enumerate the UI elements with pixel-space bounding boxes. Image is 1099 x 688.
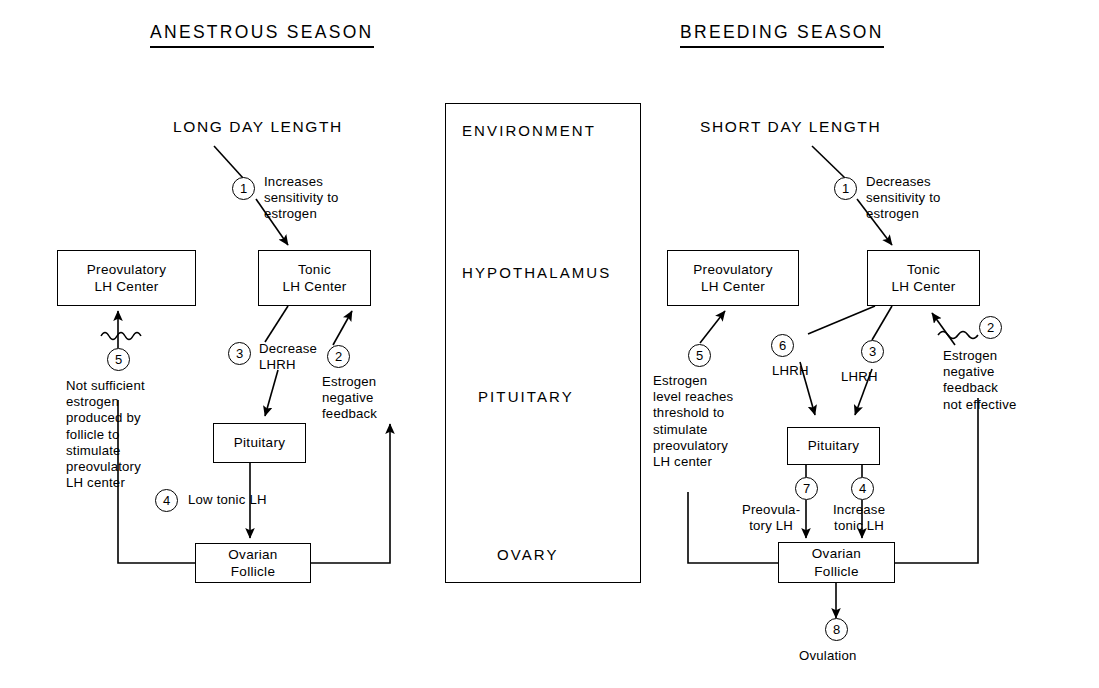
right-step-8-marker: 8: [825, 618, 848, 641]
right-box-ovarian-follicle-label: Ovarian Follicle: [812, 545, 861, 580]
right-step-4-label: Increase tonic LH: [833, 502, 885, 534]
left-step-2-marker: 2: [327, 345, 350, 368]
left-box-tonic-lh-center: Tonic LH Center: [258, 250, 371, 306]
center-level-ovary: OVARY: [497, 546, 559, 563]
right-stimulus-label: SHORT DAY LENGTH: [700, 118, 881, 136]
left-step-2-label: Estrogen negative feedback: [322, 374, 377, 423]
right-step-7-label: Preovula- tory LH: [742, 502, 800, 534]
right-step-7-marker: 7: [795, 477, 818, 500]
left-step-5-label: Not sufficient estrogen produced by foll…: [66, 378, 145, 492]
right-step-3-marker: 3: [861, 340, 884, 363]
diagram-canvas: ANESTROUS SEASON BREEDING SEASON ENVIRON…: [0, 0, 1099, 688]
right-box-ovarian-follicle: Ovarian Follicle: [778, 542, 895, 583]
right-step-6-label: LHRH: [772, 363, 809, 379]
title-breeding: BREEDING SEASON: [680, 22, 884, 43]
left-step-5-marker: 5: [107, 348, 130, 371]
left-step-1-marker: 1: [232, 177, 255, 200]
left-step-1-label: Increases sensitivity to estrogen: [264, 174, 339, 223]
left-box-ovarian-follicle: Ovarian Follicle: [195, 543, 311, 583]
left-stimulus-label: LONG DAY LENGTH: [173, 118, 343, 136]
right-box-pituitary: Pituitary: [787, 427, 880, 465]
center-column-box: [445, 103, 641, 583]
right-step-8-label: Ovulation: [799, 648, 857, 664]
right-step-6-marker: 6: [771, 334, 794, 357]
right-step-2-label: Estrogen negative feedback not effective: [943, 348, 1016, 413]
right-step-5-label: Estrogen level reaches threshold to stim…: [653, 373, 733, 470]
title-anestrous: ANESTROUS SEASON: [150, 22, 374, 43]
right-step-5-marker: 5: [688, 344, 711, 367]
left-box-pituitary-label: Pituitary: [234, 434, 285, 451]
center-level-hypothalamus: HYPOTHALAMUS: [462, 264, 611, 281]
left-box-preovulatory-lh-center: Preovulatory LH Center: [57, 250, 196, 306]
right-step-2-marker: 2: [979, 316, 1002, 339]
left-box-preovulatory-lh-center-label: Preovulatory LH Center: [87, 261, 166, 296]
left-step-3-marker: 3: [228, 342, 251, 365]
right-step-1-marker: 1: [834, 177, 857, 200]
right-box-tonic-lh-center-label: Tonic LH Center: [891, 261, 955, 296]
left-step-4-label: Low tonic LH: [188, 492, 267, 508]
left-box-ovarian-follicle-label: Ovarian Follicle: [228, 546, 277, 581]
left-step-4-marker: 4: [155, 489, 178, 512]
center-level-environment: ENVIRONMENT: [462, 122, 596, 139]
right-box-pituitary-label: Pituitary: [808, 437, 859, 454]
right-box-tonic-lh-center: Tonic LH Center: [867, 250, 980, 306]
right-step-4-marker: 4: [851, 477, 874, 500]
right-step-3-label: LHRH: [841, 369, 878, 385]
left-box-tonic-lh-center-label: Tonic LH Center: [282, 261, 346, 296]
left-step-3-label: Decrease LHRH: [259, 341, 317, 373]
center-level-pituitary: PITUITARY: [478, 388, 574, 405]
right-step-1-label: Decreases sensitivity to estrogen: [866, 174, 941, 223]
left-box-pituitary: Pituitary: [213, 423, 306, 463]
right-box-preovulatory-lh-center: Preovulatory LH Center: [667, 250, 799, 306]
right-box-preovulatory-lh-center-label: Preovulatory LH Center: [693, 261, 772, 296]
